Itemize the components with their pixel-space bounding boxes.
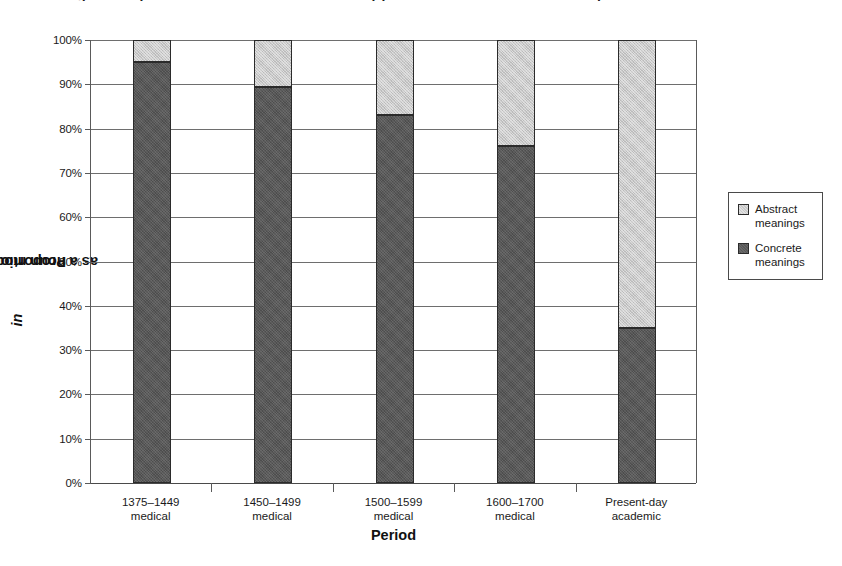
y-tick-mark-20%: [85, 394, 91, 395]
x-axis-category-line1: 1450–1499: [243, 496, 301, 508]
legend-label-concrete-line2: meanings: [755, 255, 805, 269]
y-axis-tick-label: 10%: [59, 433, 82, 445]
x-axis-category-label: Present-dayacademic: [605, 495, 667, 523]
x-axis-category-line1: Present-day: [605, 496, 667, 508]
bar-group[interactable]: [618, 40, 656, 483]
x-tick-mark: [211, 483, 212, 492]
legend-item-concrete[interactable]: Concretemeanings: [738, 241, 814, 269]
bar-segment-abstract[interactable]: [133, 40, 171, 62]
legend-label-abstract-line1: Abstract: [755, 203, 797, 215]
y-axis-tick-label: 100%: [53, 34, 82, 46]
bar-segment-concrete[interactable]: [376, 115, 414, 483]
legend-swatch-concrete-icon: [738, 243, 749, 254]
x-axis-category-label: 1600–1700medical: [486, 495, 544, 523]
bar-segment-abstract[interactable]: [376, 40, 414, 115]
x-axis-category-label: 1375–1449medical: [122, 495, 180, 523]
bar-segment-concrete[interactable]: [618, 328, 656, 483]
legend-label-concrete-line1: Concrete: [755, 242, 802, 254]
x-axis-category-line2: academic: [605, 509, 667, 523]
y-axis-tick-label: 40%: [59, 300, 82, 312]
y-tick-mark-40%: [85, 306, 91, 307]
y-tick-mark-90%: [85, 84, 91, 85]
bar-segment-abstract[interactable]: [618, 40, 656, 328]
y-axis-tick-label: 50%: [59, 256, 82, 268]
x-axis-tick-row: 1375–1449medical1450–1499medical1500–159…: [90, 483, 697, 493]
bar-group[interactable]: [376, 40, 414, 483]
x-tick-mark: [333, 483, 334, 492]
y-tick-mark-10%: [85, 439, 91, 440]
chart-legend: Abstractmeanings Concretemeanings: [728, 192, 823, 280]
legend-item-abstract[interactable]: Abstractmeanings: [738, 202, 814, 230]
x-tick-mark: [454, 483, 455, 492]
x-axis-category-line2: medical: [486, 509, 544, 523]
y-axis-tick-label: 30%: [59, 344, 82, 356]
x-axis-category-line2: medical: [122, 509, 180, 523]
y-axis-tick-label: 20%: [59, 388, 82, 400]
bar-segment-concrete[interactable]: [254, 87, 292, 483]
y-tick-mark-30%: [85, 350, 91, 351]
bar-group[interactable]: [133, 40, 171, 483]
plot-area: 0%10%20%30%40%50%60%70%80%90%100%: [90, 40, 697, 483]
x-axis-category-line2: medical: [365, 509, 423, 523]
legend-label-abstract: Abstractmeanings: [755, 202, 805, 230]
x-axis-category-line2: medical: [243, 509, 301, 523]
y-axis-tick-label: 60%: [59, 211, 82, 223]
x-axis-category-line1: 1375–1449: [122, 496, 180, 508]
y-axis-title-italic: in: [9, 313, 25, 326]
y-tick-mark-80%: [85, 129, 91, 130]
stacked-bar-chart: Proportion of in as a noun modifier 0%10…: [0, 0, 842, 566]
y-tick-mark-70%: [85, 173, 91, 174]
x-axis-category-line1: 1600–1700: [486, 496, 544, 508]
bar-segment-abstract[interactable]: [254, 40, 292, 87]
legend-label-abstract-line2: meanings: [755, 216, 805, 230]
y-axis-tick-label: 0%: [66, 477, 82, 489]
x-axis-category-label: 1500–1599medical: [365, 495, 423, 523]
y-axis-title: Proportion of in as a noun modifier: [7, 40, 27, 483]
x-axis-category-label: 1450–1499medical: [243, 495, 301, 523]
x-axis-category-line1: 1500–1599: [365, 496, 423, 508]
x-axis-title: Period: [90, 527, 697, 543]
y-tick-mark-60%: [85, 217, 91, 218]
y-tick-mark-50%: [85, 262, 91, 263]
bar-group[interactable]: [497, 40, 535, 483]
y-axis-tick-label: 80%: [59, 123, 82, 135]
bar-group[interactable]: [254, 40, 292, 483]
y-axis-tick-label: 70%: [59, 167, 82, 179]
x-tick-mark: [576, 483, 577, 492]
legend-label-concrete: Concretemeanings: [755, 241, 805, 269]
legend-swatch-abstract-icon: [738, 204, 749, 215]
bar-segment-abstract[interactable]: [497, 40, 535, 146]
y-tick-mark-100%: [85, 40, 91, 41]
y-axis-title-part2: as a noun modifier: [0, 254, 97, 270]
y-axis-tick-label: 90%: [59, 78, 82, 90]
bar-segment-concrete[interactable]: [133, 62, 171, 483]
bar-segment-concrete[interactable]: [497, 146, 535, 483]
